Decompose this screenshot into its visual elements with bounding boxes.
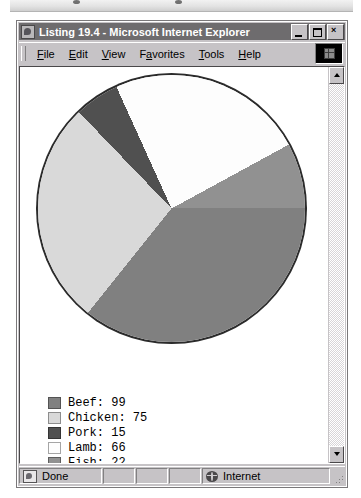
legend-item-fish: Fish: 22 bbox=[48, 456, 147, 463]
scan-artifact-strip bbox=[10, 0, 353, 12]
menu-bar: File Edit View Favorites Tools Help bbox=[19, 42, 345, 64]
page-content: Beef: 99 Chicken: 75 Pork: 15 Lamb: 66 F… bbox=[20, 67, 328, 463]
legend-swatch-lamb bbox=[48, 442, 61, 454]
menu-item-view[interactable]: View bbox=[95, 46, 133, 62]
document-frame: Beef: 99 Chicken: 75 Pork: 15 Lamb: 66 F… bbox=[19, 66, 345, 464]
close-button[interactable]: × bbox=[327, 24, 344, 40]
security-zone-panel[interactable]: Internet bbox=[202, 468, 330, 484]
menu-label: dit bbox=[76, 48, 88, 60]
status-message-panel: Done bbox=[19, 468, 102, 484]
ie-logo-icon bbox=[324, 48, 335, 59]
menu-item-edit[interactable]: Edit bbox=[62, 46, 95, 62]
pie-chart bbox=[38, 75, 305, 342]
legend-swatch-fish bbox=[48, 457, 61, 463]
status-bar: Done Internet bbox=[19, 466, 345, 485]
legend-item-lamb: Lamb: 66 bbox=[48, 441, 147, 455]
title-bar[interactable]: Listing 19.4 - Microsoft Internet Explor… bbox=[19, 23, 345, 40]
legend-swatch-pork bbox=[48, 427, 61, 439]
close-icon: × bbox=[331, 26, 336, 35]
ie-page-icon bbox=[21, 25, 35, 39]
ie-logo-button[interactable] bbox=[315, 43, 343, 64]
scroll-down-button[interactable] bbox=[329, 446, 344, 463]
menu-item-favorites[interactable]: Favorites bbox=[132, 46, 191, 62]
window-title: Listing 19.4 - Microsoft Internet Explor… bbox=[39, 26, 290, 38]
menu-item-tools[interactable]: Tools bbox=[192, 46, 232, 62]
browser-window: Listing 19.4 - Microsoft Internet Explor… bbox=[16, 20, 348, 488]
maximize-button[interactable] bbox=[309, 24, 326, 40]
menu-label: ile bbox=[44, 48, 55, 60]
menu-label: ools bbox=[204, 48, 224, 60]
scan-dot bbox=[73, 0, 80, 4]
scroll-up-button[interactable] bbox=[329, 67, 344, 84]
globe-icon bbox=[206, 471, 218, 482]
menu-item-help[interactable]: Help bbox=[231, 46, 268, 62]
legend-item-beef: Beef: 99 bbox=[48, 396, 147, 410]
status-panel-3 bbox=[136, 468, 168, 484]
chart-legend: Beef: 99 Chicken: 75 Pork: 15 Lamb: 66 F… bbox=[48, 396, 147, 463]
document-icon bbox=[23, 470, 37, 483]
scrollbar-track[interactable] bbox=[329, 84, 344, 446]
legend-swatch-beef bbox=[48, 397, 61, 409]
menu-item-file[interactable]: File bbox=[30, 46, 62, 62]
legend-label-fish: Fish: 22 bbox=[68, 456, 126, 463]
status-panel-4 bbox=[169, 468, 201, 484]
legend-swatch-chicken bbox=[48, 412, 61, 424]
legend-item-pork: Pork: 15 bbox=[48, 426, 147, 440]
legend-label-beef: Beef: 99 bbox=[68, 396, 126, 410]
legend-label-lamb: Lamb: 66 bbox=[68, 441, 126, 455]
menu-label: elp bbox=[246, 48, 261, 60]
menu-label: vorites bbox=[152, 48, 184, 60]
resize-grip[interactable] bbox=[331, 467, 345, 485]
status-panel-2 bbox=[103, 468, 135, 484]
minimize-button[interactable] bbox=[291, 24, 308, 40]
menu-drag-grip[interactable] bbox=[21, 46, 26, 61]
legend-label-pork: Pork: 15 bbox=[68, 426, 126, 440]
scroll-down-arrow-icon bbox=[334, 452, 340, 456]
scroll-up-arrow-icon bbox=[334, 73, 340, 77]
menu-label: iew bbox=[109, 48, 126, 60]
legend-item-chicken: Chicken: 75 bbox=[48, 411, 147, 425]
status-message: Done bbox=[42, 470, 68, 482]
legend-label-chicken: Chicken: 75 bbox=[68, 411, 147, 425]
scan-dot bbox=[175, 0, 182, 4]
security-zone-label: Internet bbox=[223, 470, 260, 482]
vertical-scrollbar[interactable] bbox=[328, 67, 344, 463]
